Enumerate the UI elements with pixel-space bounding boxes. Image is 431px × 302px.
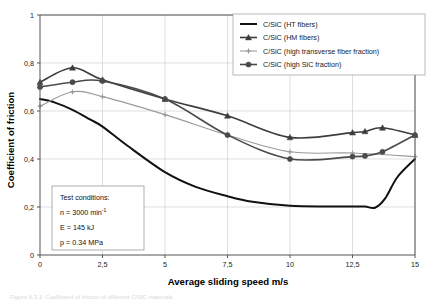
legend-label: C/SiC (high transverse fiber fraction) [263,47,379,56]
y-axis-title: Coefficient of friction [5,92,16,189]
figure-container: 02,557,51012,51500,20,40,60,81 Test cond… [0,0,431,302]
annotation-box: Test conditions:n = 3000 min-1E = 145 kJ… [52,186,144,250]
chart-legend: C/SiC (HT fibers)C/SiC (HM fibers)C/SiC … [233,14,425,75]
legend-label: C/SiC (high SiC fraction) [263,60,341,69]
y-tick-label: 0,4 [24,155,34,164]
x-axis-title: Average sliding speed m/s [168,276,289,287]
figure-caption: Figure 6.3.1: Coefficient of friction of… [10,294,173,300]
data-point-4 [287,156,292,161]
test-condition-line: p = 0.34 MPa [60,238,103,247]
y-tick-label: 0,2 [24,203,34,212]
data-point-3 [163,112,168,117]
data-point-4 [100,78,105,83]
x-tick-label: 7,5 [223,260,233,269]
y-tick-label: 0,8 [24,59,34,68]
data-point-4 [380,149,385,154]
legend-label: C/SiC (HM fibers) [263,33,319,42]
y-tick-label: 0,6 [24,107,34,116]
data-point-3 [288,149,293,154]
legend-label: C/SiC (HT fibers) [263,20,318,29]
superscript: -1 [102,207,107,213]
friction-line-chart: 02,557,51012,51500,20,40,60,81 Test cond… [0,0,431,302]
data-point-4 [350,154,355,159]
x-tick-label: 5 [163,260,167,269]
data-point-4 [225,132,230,137]
x-tick-label: 15 [411,260,419,269]
data-point-4 [162,96,167,101]
y-tick-label: 1 [30,11,34,20]
test-condition-line: Test conditions: [60,193,110,202]
test-condition-line: n = 3000 min-1 [60,207,106,217]
x-tick-label: 2,5 [98,260,108,269]
data-point-3 [70,89,75,94]
y-tick-label: 0 [30,251,34,260]
data-point-4 [362,153,367,158]
x-tick-label: 0 [38,260,42,269]
x-tick-label: 12,5 [346,260,360,269]
data-point-legend [246,62,251,67]
x-tick-label: 10 [286,260,294,269]
data-point-4 [70,80,75,85]
data-point-3 [100,94,105,99]
test-condition-line: E = 145 kJ [60,223,95,232]
